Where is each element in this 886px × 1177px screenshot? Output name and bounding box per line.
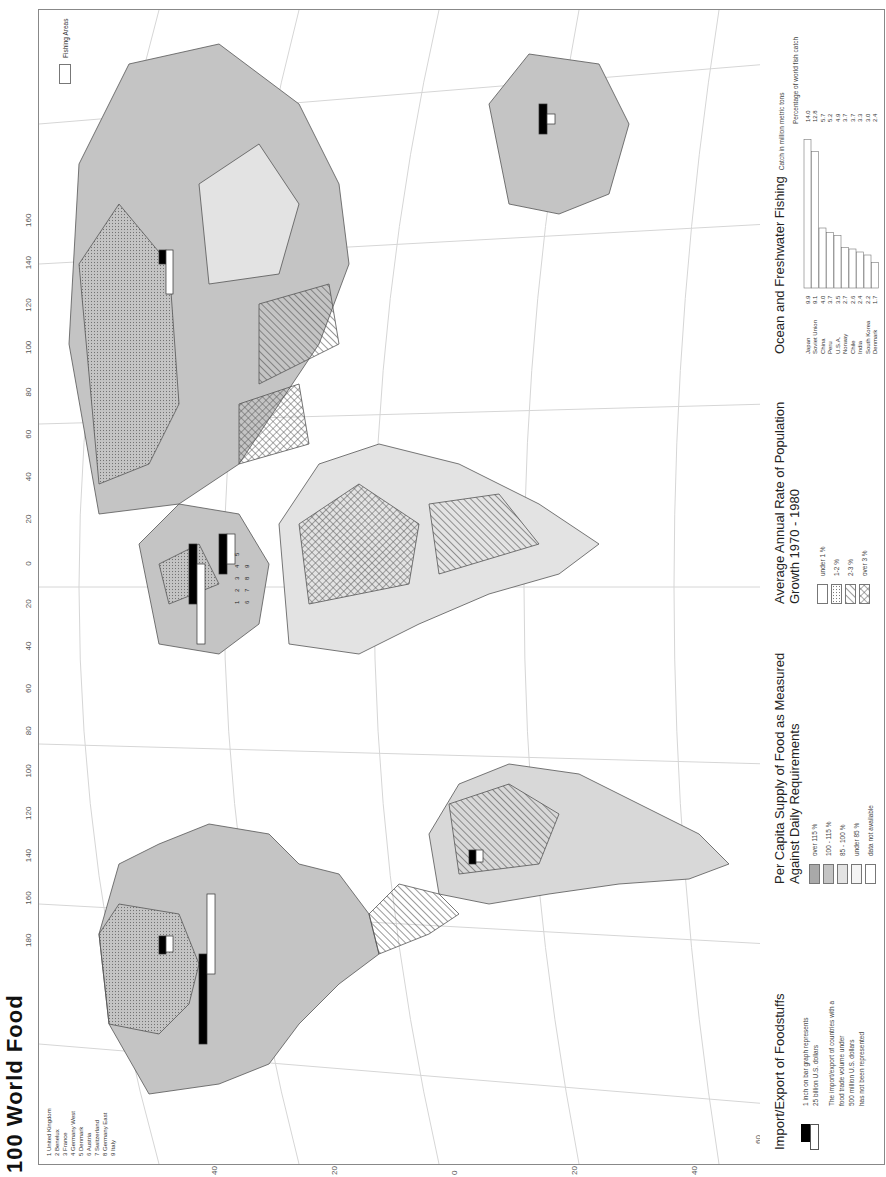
europe-bar-number: 3 xyxy=(234,576,240,580)
australia xyxy=(489,54,629,214)
europe-bar-number: 4 xyxy=(234,564,240,568)
fish-catch-bar xyxy=(864,255,871,288)
export-bar xyxy=(199,954,207,1044)
import-bar xyxy=(547,114,555,124)
fish-percent-value: 3.0 xyxy=(865,113,871,122)
fish-catch-value: 4.0 xyxy=(820,295,826,304)
fish-catch-bar xyxy=(842,248,849,289)
fish-catch-bar xyxy=(857,252,864,288)
fish-country-label: South Korea xyxy=(865,320,871,354)
export-bar-sample xyxy=(801,1124,810,1142)
export-bar xyxy=(539,104,547,134)
fish-percent-value: 12.8 xyxy=(812,110,818,122)
percent-header: Percentage of world fish catch xyxy=(792,37,800,124)
longitude-label: 100 xyxy=(24,341,33,354)
food-class-row: under 85 % xyxy=(850,624,862,884)
latitude-label: 40 xyxy=(690,1166,699,1175)
europe-key-item: 3 France xyxy=(61,1108,69,1156)
fishing-title-row: Ocean and Freshwater Fishing Catch in mi… xyxy=(772,14,789,354)
longitude-label: 0 xyxy=(24,561,33,565)
south-america xyxy=(429,764,729,904)
growth-class-row: over 3 % xyxy=(858,374,870,604)
fishing-rows: Japan9.914.0Soviet Union9.112.8China4.05… xyxy=(804,110,879,354)
fish-percent-value: 3.7 xyxy=(850,113,856,122)
longitude-label: 120 xyxy=(24,807,33,820)
fish-catch-bar xyxy=(872,263,879,289)
latitude-label: 40 xyxy=(210,1166,219,1175)
food-supply-title-line: Per Capita Supply of Food as Measured xyxy=(772,624,787,884)
africa xyxy=(279,444,599,654)
export-bar xyxy=(219,534,227,574)
fish-country-label: Japan xyxy=(805,338,811,354)
food-supply-title-line: Against Daily Requirements xyxy=(787,624,802,884)
food-supply-legend: Per Capita Supply of Food as Measured Ag… xyxy=(760,624,884,884)
import-export-title: Import/Export of Foodstuffs xyxy=(772,920,787,1150)
longitude-label: 160 xyxy=(24,891,33,904)
fish-catch-value: 3.5 xyxy=(835,295,841,304)
growth-swatch-over-3 xyxy=(859,584,870,604)
food-class-swatch xyxy=(823,864,834,884)
growth-swatch-2-3 xyxy=(845,584,856,604)
fish-catch-bar xyxy=(849,249,856,288)
fish-percent-value: 5.2 xyxy=(827,113,833,122)
meridian-line xyxy=(39,744,769,764)
latitude-label: 0 xyxy=(450,1171,459,1175)
longitude-label: 140 xyxy=(24,256,33,269)
australia-land xyxy=(489,54,629,214)
longitude-label: 100 xyxy=(24,764,33,777)
fish-catch-value: 3.7 xyxy=(827,295,833,304)
fishing-bar-chart: Percentage of world fish catch Japan9.91… xyxy=(790,24,880,354)
longitude-label: 80 xyxy=(24,726,33,735)
fish-percent-value: 4.9 xyxy=(835,113,841,122)
longitude-label: 20 xyxy=(24,515,33,524)
fishing-areas-label: Fishing Areas xyxy=(62,19,69,58)
fish-country-label: China xyxy=(820,338,826,354)
import-bar xyxy=(207,894,215,974)
europe-key-item: 2 Benelux xyxy=(53,1108,61,1156)
fish-catch-value: 2.6 xyxy=(850,295,856,304)
longitude-label: 140 xyxy=(24,849,33,862)
food-supply-title: Per Capita Supply of Food as Measured Ag… xyxy=(772,624,802,884)
europe-bar-number: 6 xyxy=(244,600,250,604)
fish-country-label: India xyxy=(857,340,863,354)
import-export-legend: Import/Export of Foodstuffs 1 inch on ba… xyxy=(760,920,884,1150)
fish-catch-value: 2.2 xyxy=(865,295,871,304)
export-bar xyxy=(469,850,476,864)
latitude-label: 20 xyxy=(330,1166,339,1175)
map-canvas: 123456789 60 xyxy=(39,10,769,1164)
fishing-areas-swatch xyxy=(59,64,71,84)
longitude-label: 120 xyxy=(24,298,33,311)
food-class-label: 100 - 115 % xyxy=(825,821,832,856)
fish-country-label: U.S.A. xyxy=(835,336,841,354)
scale-note: 25 billion U.S. dollars xyxy=(811,1001,821,1106)
fish-country-label: Chile xyxy=(850,340,856,354)
growth-class-label: 2-3 % xyxy=(847,559,854,576)
growth-class-label: 1-2 % xyxy=(833,559,840,576)
food-class-row: over 115 % xyxy=(808,624,820,884)
fish-catch-value: 1.7 xyxy=(872,295,878,304)
threshold-note: 500 million U.S. dollars xyxy=(847,1001,857,1106)
longitude-label: 180 xyxy=(24,934,33,947)
europe-key-item: 5 Denmark xyxy=(77,1108,85,1156)
population-title-line: Average Annual Rate of Population xyxy=(772,374,787,604)
longitude-label: 160 xyxy=(24,214,33,227)
fish-country-label: Norway xyxy=(842,334,848,354)
growth-swatch-under-1 xyxy=(817,584,828,604)
trade-bar-sample xyxy=(801,1116,823,1150)
fish-catch-value: 9.1 xyxy=(812,295,818,304)
europe-key-item: 1 United Kingdom xyxy=(45,1108,53,1156)
fish-country-label: Peru xyxy=(827,341,833,354)
population-title-line: Growth 1970 - 1980 xyxy=(787,374,802,604)
fish-percent-value: 3.7 xyxy=(842,113,848,122)
threshold-note: The import/export of countries with a xyxy=(827,1001,837,1106)
fishing-legend: Ocean and Freshwater Fishing Catch in mi… xyxy=(760,14,884,354)
europe-bar-number: 5 xyxy=(234,552,240,556)
import-bar xyxy=(197,564,205,644)
growth-class-row: 1-2 % xyxy=(830,374,842,604)
longitude-label: 60 xyxy=(24,430,33,439)
longitude-label: 20 xyxy=(24,599,33,608)
fish-catch-bar xyxy=(812,152,819,289)
longitude-label: 40 xyxy=(24,472,33,481)
growth-class-label: over 3 % xyxy=(861,550,868,576)
fish-catch-bar xyxy=(834,236,841,289)
